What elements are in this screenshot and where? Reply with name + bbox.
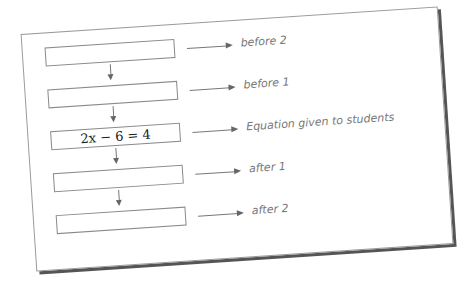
label-before-1: before 1	[243, 75, 290, 91]
box-after-2	[56, 207, 187, 235]
box-equation: 2x − 6 = 4	[50, 123, 181, 151]
label-after-2: after 2	[251, 202, 288, 217]
arrow-down-icon	[118, 190, 120, 201]
arrow-right-icon	[187, 45, 231, 49]
paper-sheet: before 2 before 1 2x − 6 = 4 Equation gi…	[21, 6, 454, 271]
arrow-right-icon	[192, 129, 236, 133]
worksheet: before 2 before 1 2x − 6 = 4 Equation gi…	[0, 0, 472, 285]
arrow-down-icon	[115, 148, 117, 159]
arrow-right-icon	[198, 213, 242, 217]
box-after-1	[53, 165, 184, 193]
arrow-down-icon	[113, 106, 115, 117]
label-before-2: before 2	[240, 34, 287, 50]
arrow-down-icon	[110, 64, 112, 75]
arrow-right-icon	[190, 87, 234, 91]
arrow-right-icon	[195, 171, 239, 175]
box-before-2	[45, 39, 176, 67]
box-before-1	[47, 81, 178, 109]
label-equation: Equation given to students	[246, 111, 395, 134]
label-after-1: after 1	[249, 160, 286, 175]
